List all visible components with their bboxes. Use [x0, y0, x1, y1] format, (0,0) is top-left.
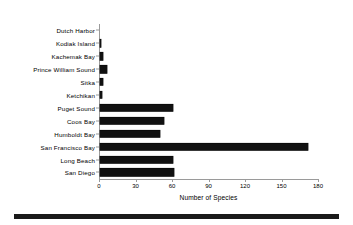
bar-row: Kodiak Island: [0, 37, 353, 50]
x-tick-mark: [245, 179, 246, 182]
category-label: San Francisco Bay: [41, 143, 95, 150]
bar: [100, 104, 173, 111]
category-tick: [96, 172, 100, 173]
bar: [100, 78, 104, 85]
x-tick-label: 90: [205, 183, 212, 190]
category-tick: [96, 43, 100, 44]
category-label: Sitka: [80, 79, 95, 86]
bar-rows-container: Dutch HarborKodiak IslandKachemak BayPri…: [0, 24, 353, 179]
bar: [100, 169, 174, 176]
bar: [100, 65, 107, 72]
bar-row: Coos Bay: [0, 114, 353, 127]
x-tick-label: 150: [276, 183, 286, 190]
category-label: Humboldt Bay: [54, 130, 95, 137]
bar: [100, 53, 104, 60]
bar-row: Ketchikan: [0, 89, 353, 102]
x-tick-mark: [99, 179, 100, 182]
category-label: Puget Sound: [58, 104, 95, 111]
bar: [100, 91, 102, 98]
category-label: Coos Bay: [67, 117, 95, 124]
bar: [100, 156, 173, 163]
category-label: Prince William Sound: [33, 66, 95, 73]
x-axis-title: Number of Species: [99, 194, 318, 202]
category-label: Long Beach: [60, 156, 95, 163]
category-label: Kodiak Island: [56, 40, 95, 47]
bar: [100, 130, 161, 137]
bar: [100, 40, 101, 47]
x-tick-label: 30: [132, 183, 139, 190]
category-label: Ketchikan: [66, 91, 95, 98]
bar-row: Long Beach: [0, 153, 353, 166]
category-tick: [96, 56, 100, 57]
x-tick-label: 60: [169, 183, 176, 190]
category-tick: [96, 69, 100, 70]
bar-row: Sitka: [0, 76, 353, 89]
bar-row: Humboldt Bay: [0, 127, 353, 140]
x-tick-mark: [209, 179, 210, 182]
x-tick-mark: [318, 179, 319, 182]
category-tick: [96, 94, 100, 95]
category-tick: [96, 30, 100, 31]
category-tick: [96, 146, 100, 147]
species-bar-chart: Dutch HarborKodiak IslandKachemak BayPri…: [0, 0, 353, 225]
x-tick-mark: [172, 179, 173, 182]
bar-row: Kachemak Bay: [0, 50, 353, 63]
bar-row: Puget Sound: [0, 101, 353, 114]
bar-row: San Diego: [0, 166, 353, 179]
category-label: Dutch Harbor: [56, 27, 95, 34]
x-tick-label: 180: [313, 183, 323, 190]
bar: [100, 143, 308, 150]
bar-row: San Francisco Bay: [0, 140, 353, 153]
bar-row: Prince William Sound: [0, 63, 353, 76]
category-tick: [96, 107, 100, 108]
category-tick: [96, 159, 100, 160]
x-tick-mark: [282, 179, 283, 182]
x-tick-mark: [136, 179, 137, 182]
x-tick-label: 0: [97, 183, 100, 190]
bar: [100, 117, 164, 124]
category-label: Kachemak Bay: [52, 53, 95, 60]
category-tick: [96, 133, 100, 134]
x-tick-label: 120: [240, 183, 250, 190]
footer-rule: [14, 214, 339, 219]
category-tick: [96, 120, 100, 121]
bar-row: Dutch Harbor: [0, 24, 353, 37]
category-label: San Diego: [65, 169, 95, 176]
category-tick: [96, 82, 100, 83]
